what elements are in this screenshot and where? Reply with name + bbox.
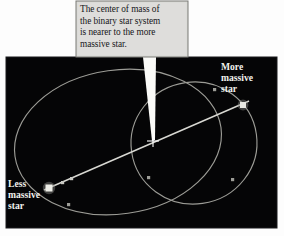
more-massive-star-label-line: star bbox=[221, 83, 275, 94]
callout-line: The center of mass of bbox=[80, 4, 188, 16]
orbit-tick-mark bbox=[147, 176, 150, 179]
callout-line: massive star. bbox=[80, 39, 188, 51]
less-massive-star-label: Less massive star bbox=[8, 178, 66, 212]
more-massive-star-dot bbox=[238, 100, 249, 111]
more-massive-star-label-line: massive bbox=[221, 72, 275, 83]
callout-text: The center of mass of the binary star sy… bbox=[80, 4, 188, 50]
callout-line: the binary star system bbox=[80, 16, 188, 28]
orbit-tick-mark bbox=[231, 178, 234, 181]
less-massive-star-label-line: star bbox=[8, 200, 66, 211]
orbit-tick-mark bbox=[67, 203, 70, 206]
more-massive-star-label: More massive star bbox=[221, 61, 275, 95]
orbit-tick-mark bbox=[70, 177, 73, 180]
more-massive-star-label-line: More bbox=[221, 61, 275, 72]
less-massive-star-label-line: Less bbox=[8, 178, 66, 189]
orbit-tick-mark bbox=[213, 88, 216, 91]
binary-star-figure: The center of mass of the binary star sy… bbox=[0, 0, 284, 236]
less-massive-star-label-line: massive bbox=[8, 189, 66, 200]
callout-line: is nearer to the more bbox=[80, 27, 188, 39]
